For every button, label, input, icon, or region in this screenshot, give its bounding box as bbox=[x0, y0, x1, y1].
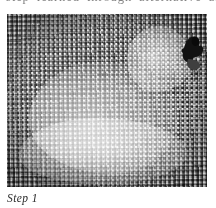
top-running-text: step learned through alternative an bbox=[0, 0, 216, 9]
needlepoint-canvas-photo bbox=[7, 14, 207, 187]
figure-caption: Step 1 bbox=[7, 192, 38, 205]
top-running-text-line: step learned through alternative an bbox=[6, 0, 212, 4]
figure-photo bbox=[7, 14, 207, 187]
canvas-mesh-grid bbox=[7, 14, 207, 187]
